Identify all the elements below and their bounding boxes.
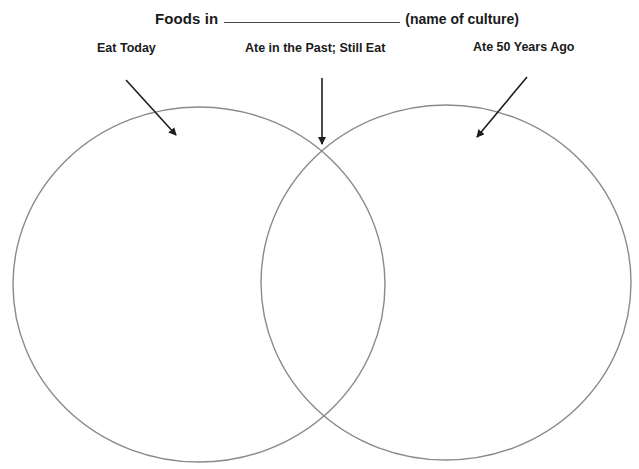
arrow-ate-50-years-ago-icon bbox=[477, 77, 527, 137]
circle-eat-today[interactable] bbox=[13, 107, 385, 462]
venn-diagram bbox=[0, 0, 639, 469]
circle-ate-50-years-ago[interactable] bbox=[261, 105, 631, 460]
arrow-eat-today-icon bbox=[126, 80, 176, 135]
